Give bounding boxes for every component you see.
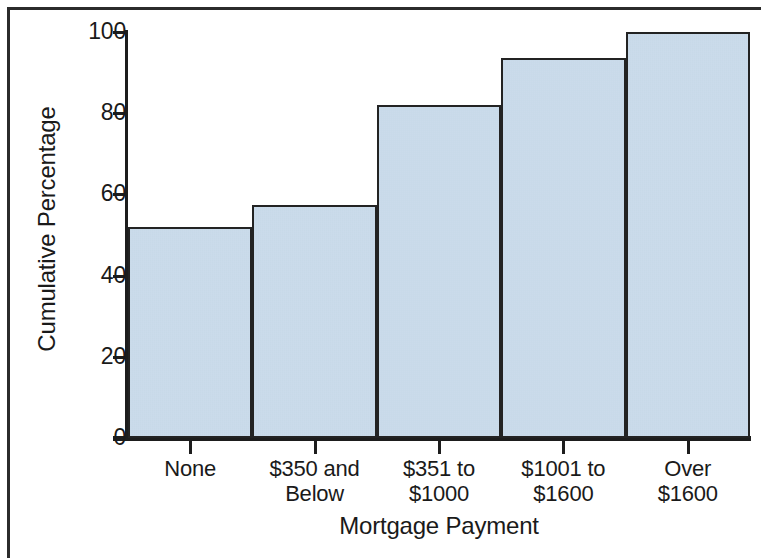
- x-axis-tick-label: $1001 to$1600: [501, 456, 625, 506]
- y-axis-tick-label: 20: [72, 345, 126, 368]
- x-axis-tick-label-line1: $1001 to: [501, 456, 625, 481]
- page-frame-left-rule: [7, 7, 10, 558]
- bar-chart-figure: 100806040200 None$350 andBelow$351 to$10…: [0, 0, 761, 558]
- plot-area: [128, 32, 750, 438]
- x-axis-tick-label-line2: $1000: [377, 481, 501, 506]
- x-axis-tick-label-line2: Below: [252, 481, 376, 506]
- x-axis-tick-label-line2: $1600: [626, 481, 750, 506]
- x-axis-tick-label-line1: $351 to: [377, 456, 501, 481]
- y-axis-tick-label: 0: [72, 426, 126, 449]
- x-axis-tick: [438, 441, 441, 454]
- x-axis-tick-label: $351 to$1000: [377, 456, 501, 506]
- x-axis-tick-label-line1: $350 and: [252, 456, 376, 481]
- bar: [501, 58, 625, 438]
- y-axis-tick-label: 80: [72, 101, 126, 124]
- y-axis-tick-label: 100: [72, 20, 126, 43]
- y-axis-title: Cumulative Percentage: [33, 29, 61, 429]
- x-axis-tick-label-line2: $1600: [501, 481, 625, 506]
- x-axis-tick-label-line1: None: [128, 456, 252, 481]
- x-axis-tick: [562, 441, 565, 454]
- bar: [252, 205, 376, 438]
- x-axis-tick: [189, 441, 192, 454]
- bar: [128, 227, 252, 438]
- y-axis-tick-label: 60: [72, 182, 126, 205]
- x-axis-tick-label: $350 andBelow: [252, 456, 376, 506]
- x-axis-tick-label: None: [128, 456, 252, 481]
- y-axis-tick-label: 40: [72, 264, 126, 287]
- x-axis-tick-label-line1: Over: [626, 456, 750, 481]
- bar: [626, 32, 750, 438]
- x-axis-tick: [687, 441, 690, 454]
- x-axis-tick-label: Over$1600: [626, 456, 750, 506]
- x-axis-tick: [314, 441, 317, 454]
- page-frame-top-rule: [7, 7, 761, 10]
- x-axis-title: Mortgage Payment: [128, 512, 750, 540]
- bar: [377, 105, 501, 438]
